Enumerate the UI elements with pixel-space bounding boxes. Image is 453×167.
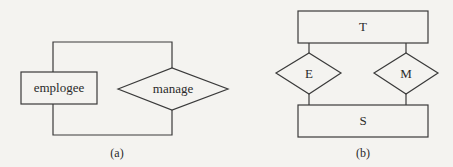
relationship-e-label: E: [305, 66, 313, 81]
relationship-manage-label: manage: [153, 81, 194, 96]
caption-a: (a): [110, 146, 123, 160]
caption-b: (b): [356, 146, 370, 160]
connector-top: [53, 42, 172, 72]
relationship-m-label: M: [400, 66, 412, 81]
entity-s-label: S: [359, 113, 366, 128]
diagram-b: T E M S (b): [276, 11, 438, 160]
entity-t-label: T: [359, 19, 367, 34]
connector-bottom: [53, 104, 172, 135]
diagram-a: emplogee manage (a): [21, 42, 228, 160]
er-diagrams: emplogee manage (a) T E M S (b): [0, 0, 453, 167]
entity-employee-label: emplogee: [34, 80, 85, 95]
